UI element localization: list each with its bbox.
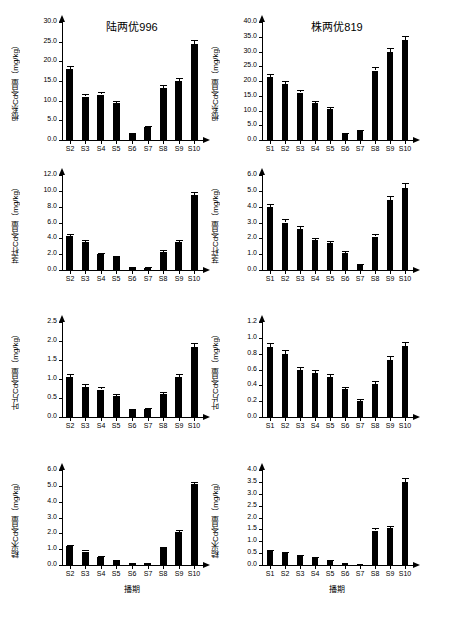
x-tick bbox=[345, 566, 346, 569]
y-tick-label: 4.0 bbox=[232, 465, 257, 472]
x-tick bbox=[390, 566, 391, 569]
x-tick bbox=[285, 566, 286, 569]
bar bbox=[387, 528, 393, 565]
bar bbox=[342, 563, 348, 565]
figure-root: 0.05.010.015.020.025.030.0S2S3S4S5S6S7S8… bbox=[0, 0, 451, 629]
error-bar-cap bbox=[327, 560, 334, 561]
x-tick bbox=[360, 566, 361, 569]
y-tick bbox=[259, 482, 262, 483]
y-tick bbox=[259, 529, 262, 530]
bar bbox=[282, 553, 288, 565]
y-axis bbox=[262, 470, 263, 566]
y-tick-label: 2.0 bbox=[232, 513, 257, 520]
x-axis-title: 播期 bbox=[307, 583, 367, 594]
error-bar-cap bbox=[267, 550, 274, 551]
x-tick bbox=[315, 566, 316, 569]
x-tick bbox=[405, 566, 406, 569]
y-tick bbox=[259, 541, 262, 542]
y-tick bbox=[259, 553, 262, 554]
error-bar-cap bbox=[312, 557, 319, 558]
error-bar-cap bbox=[372, 528, 379, 529]
chart-panel-panel-r4c2: 0.00.51.01.52.02.53.03.54.0S1S2S3S4S5S6S… bbox=[0, 0, 451, 629]
y-tick-label: 3.0 bbox=[232, 489, 257, 496]
bar bbox=[267, 551, 273, 565]
bar bbox=[327, 561, 333, 565]
y-tick bbox=[259, 506, 262, 507]
error-bar-cap bbox=[282, 552, 289, 553]
bar bbox=[372, 531, 378, 565]
error-bar-cap bbox=[387, 526, 394, 527]
y-tick-label: 0.0 bbox=[232, 560, 257, 567]
error-bar-cap bbox=[402, 478, 409, 479]
error-bar-cap bbox=[297, 555, 304, 556]
y-tick-label: 1.0 bbox=[232, 536, 257, 543]
bar bbox=[402, 482, 408, 565]
y-tick bbox=[259, 565, 262, 566]
bar bbox=[357, 564, 363, 565]
bar bbox=[297, 556, 303, 565]
y-tick bbox=[259, 470, 262, 471]
x-axis-arrow-icon bbox=[413, 562, 420, 568]
y-tick bbox=[259, 518, 262, 519]
x-tick bbox=[270, 566, 271, 569]
y-tick-label: 3.5 bbox=[232, 477, 257, 484]
y-tick-label: 1.5 bbox=[232, 524, 257, 531]
bar bbox=[312, 558, 318, 565]
x-tick bbox=[300, 566, 301, 569]
x-tick bbox=[375, 566, 376, 569]
x-tick-label: S10 bbox=[393, 570, 417, 577]
y-tick-label: 0.5 bbox=[232, 548, 257, 555]
x-tick bbox=[330, 566, 331, 569]
y-tick-label: 2.5 bbox=[232, 501, 257, 508]
y-tick bbox=[259, 494, 262, 495]
y-axis-arrow-icon bbox=[259, 463, 265, 470]
y-axis-label: 糙米Cd含量（mg/kg） bbox=[210, 466, 221, 569]
